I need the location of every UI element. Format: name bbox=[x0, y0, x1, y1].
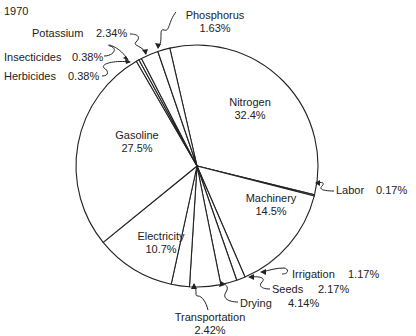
label-transportation-pct: 2.42% bbox=[170, 324, 250, 336]
label-labor-pct: 0.17% bbox=[376, 184, 407, 197]
pie-chart bbox=[0, 0, 416, 336]
label-phosphorus: Phosphorus 1.63% bbox=[180, 9, 250, 35]
label-phosphorus-pct: 1.63% bbox=[180, 22, 250, 35]
label-drying-name: Drying bbox=[240, 297, 272, 310]
label-gasoline-name: Gasoline bbox=[102, 129, 172, 142]
label-nitrogen-name: Nitrogen bbox=[215, 96, 285, 109]
label-nitrogen-pct: 32.4% bbox=[215, 109, 285, 122]
label-electricity-pct: 10.7% bbox=[126, 243, 196, 256]
label-electricity-name: Electricity bbox=[126, 230, 196, 243]
pie-slices bbox=[76, 45, 318, 287]
label-phosphorus-name: Phosphorus bbox=[180, 9, 250, 22]
label-machinery: Machinery 14.5% bbox=[236, 192, 306, 218]
label-herbicides-pct: 0.38% bbox=[68, 70, 99, 83]
label-seeds-pct: 2.17% bbox=[318, 283, 349, 296]
label-insecticides-name: Insecticides bbox=[4, 51, 61, 64]
label-machinery-name: Machinery bbox=[236, 192, 306, 205]
label-gasoline: Gasoline 27.5% bbox=[102, 129, 172, 155]
label-irrigation-name: Irrigation bbox=[292, 268, 335, 281]
label-insecticides-pct: 0.38% bbox=[72, 51, 103, 64]
label-potassium-name: Potassium bbox=[32, 27, 83, 40]
chart-year-title: 1970 bbox=[4, 5, 28, 18]
label-nitrogen: Nitrogen 32.4% bbox=[215, 96, 285, 122]
label-labor-name: Labor bbox=[336, 184, 364, 197]
label-potassium-pct: 2.34% bbox=[96, 27, 127, 40]
label-transportation-name: Transportation bbox=[170, 311, 250, 324]
label-herbicides-name: Herbicides bbox=[4, 70, 56, 83]
label-transportation: Transportation 2.42% bbox=[170, 311, 250, 336]
label-gasoline-pct: 27.5% bbox=[102, 142, 172, 155]
label-irrigation-pct: 1.17% bbox=[348, 268, 379, 281]
label-machinery-pct: 14.5% bbox=[236, 205, 306, 218]
label-drying-pct: 4.14% bbox=[288, 297, 319, 310]
label-electricity: Electricity 10.7% bbox=[126, 230, 196, 256]
label-seeds-name: Seeds bbox=[272, 283, 303, 296]
